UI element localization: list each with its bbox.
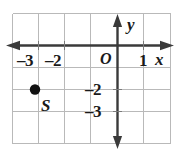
y-axis bbox=[113, 14, 122, 149]
grid-lines bbox=[13, 14, 171, 144]
coordinate-plane-figure: –3 –2 1 –2 –3 O y x S bbox=[0, 0, 179, 153]
y-tick-label-neg2: –2 bbox=[85, 81, 101, 98]
x-tick-label-1: 1 bbox=[139, 52, 147, 69]
point-marker-s bbox=[30, 84, 40, 94]
graph-canvas bbox=[0, 0, 179, 153]
y-axis-label: y bbox=[127, 16, 135, 33]
x-tick-label-neg3: –3 bbox=[17, 52, 33, 69]
point-label-s: S bbox=[41, 97, 50, 114]
x-tick-label-neg2: –2 bbox=[45, 52, 61, 69]
y-tick-label-neg3: –3 bbox=[85, 103, 101, 120]
origin-label: O bbox=[100, 51, 112, 67]
x-axis-label: x bbox=[155, 51, 164, 68]
